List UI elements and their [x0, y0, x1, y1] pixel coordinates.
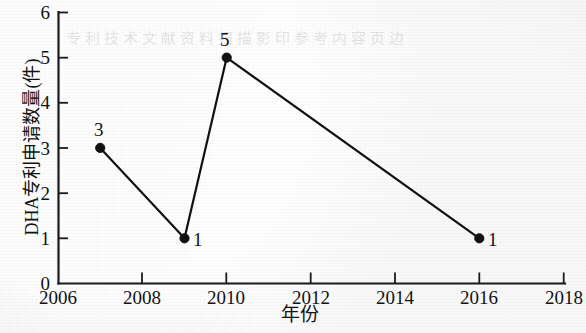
data-line [100, 58, 479, 239]
data-point-2007 [96, 143, 105, 152]
point-value-label-2007: 3 [94, 120, 104, 139]
x-axis-title: 年份 [0, 305, 586, 324]
plot-area [0, 0, 586, 333]
x-axis-ticks [142, 273, 564, 284]
y-axis-title: DHA专利申请数量(件) [23, 22, 41, 272]
chart-figure: 专利技术文献资料扫描影印参考内容页边 [0, 0, 586, 333]
point-value-label-2010: 5 [220, 30, 230, 49]
y-tick-label-6: 6 [28, 3, 50, 22]
y-axis-ticks [59, 13, 69, 239]
data-point-2016 [475, 234, 484, 243]
data-point-2009 [180, 234, 189, 243]
point-value-label-2016: 1 [488, 230, 498, 249]
point-value-label-2009: 1 [193, 230, 203, 249]
data-point-2010 [222, 53, 231, 62]
data-markers [96, 53, 484, 243]
